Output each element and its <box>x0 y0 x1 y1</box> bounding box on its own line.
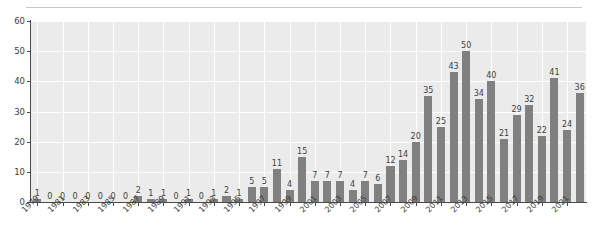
bar-group[interactable]: 36 <box>573 21 586 202</box>
bar-group[interactable]: 0 <box>170 21 183 202</box>
bar-group[interactable]: 7 <box>334 21 347 202</box>
bar-group[interactable]: 0 <box>44 21 57 202</box>
bar-value-label: 40 <box>486 71 496 80</box>
bar-group[interactable]: 0 <box>69 21 82 202</box>
bar-value-label: 1 <box>148 189 153 198</box>
bar-value-label: 15 <box>297 147 307 156</box>
y-tick-mark <box>27 112 31 113</box>
bar[interactable] <box>487 81 495 202</box>
bar-group[interactable]: 7 <box>309 21 322 202</box>
y-tick-label: 20 <box>1 138 25 147</box>
bar-group[interactable]: 20 <box>409 21 422 202</box>
bar-group[interactable]: 4 <box>346 21 359 202</box>
y-tick-mark <box>27 21 31 22</box>
bar[interactable] <box>513 115 521 202</box>
bar-value-label: 36 <box>575 83 585 92</box>
y-tick-mark <box>27 142 31 143</box>
bar-value-label: 21 <box>499 129 509 138</box>
bar-value-label: 24 <box>562 120 572 129</box>
bar-group[interactable]: 22 <box>536 21 549 202</box>
bar[interactable] <box>437 127 445 202</box>
bar[interactable] <box>475 99 483 202</box>
bar-group[interactable]: 0 <box>107 21 120 202</box>
bar-group[interactable]: 1 <box>31 21 44 202</box>
bar[interactable] <box>576 93 584 202</box>
bar[interactable] <box>525 105 533 202</box>
bar-value-label: 0 <box>47 192 52 201</box>
bar-value-label: 0 <box>199 192 204 201</box>
plot-area: 1000000021101012155114157774761214203525… <box>31 21 586 202</box>
bar-group[interactable]: 43 <box>447 21 460 202</box>
bar[interactable] <box>563 130 571 202</box>
y-tick-label: 30 <box>1 108 25 117</box>
bar[interactable] <box>538 136 546 202</box>
bar[interactable] <box>424 96 432 202</box>
bar[interactable] <box>500 139 508 202</box>
bar-value-label: 5 <box>249 177 254 186</box>
bar-value-label: 7 <box>325 171 330 180</box>
bar-group[interactable]: 0 <box>119 21 132 202</box>
bar-group[interactable]: 34 <box>472 21 485 202</box>
bar-value-label: 7 <box>337 171 342 180</box>
bar-value-label: 41 <box>549 68 559 77</box>
bar-value-label: 20 <box>411 132 421 141</box>
bar-group[interactable]: 14 <box>397 21 410 202</box>
bar-value-label: 4 <box>350 180 355 189</box>
bar-group[interactable]: 0 <box>56 21 69 202</box>
bar-group[interactable]: 15 <box>296 21 309 202</box>
bar-group[interactable]: 2 <box>220 21 233 202</box>
bar-value-label: 43 <box>448 62 458 71</box>
bar-group[interactable]: 1 <box>157 21 170 202</box>
bar-group[interactable]: 2 <box>132 21 145 202</box>
bar-group[interactable]: 40 <box>485 21 498 202</box>
y-tick-mark <box>27 51 31 52</box>
bar-group[interactable]: 24 <box>561 21 574 202</box>
bar-value-label: 34 <box>474 89 484 98</box>
bar-group[interactable]: 35 <box>422 21 435 202</box>
top-divider-rule <box>26 7 582 8</box>
bar-group[interactable]: 5 <box>258 21 271 202</box>
bar-value-label: 2 <box>136 186 141 195</box>
bar-group[interactable]: 7 <box>359 21 372 202</box>
bar-group[interactable]: 0 <box>195 21 208 202</box>
bar-group[interactable]: 6 <box>372 21 385 202</box>
bar[interactable] <box>550 78 558 202</box>
bar-group[interactable]: 1 <box>233 21 246 202</box>
bar[interactable] <box>462 51 470 202</box>
y-tick-label: 10 <box>1 168 25 177</box>
y-tick-label: 60 <box>1 17 25 26</box>
bar-group[interactable]: 7 <box>321 21 334 202</box>
bars-layer: 1000000021101012155114157774761214203525… <box>31 21 586 202</box>
bar[interactable] <box>273 169 281 202</box>
bar-value-label: 7 <box>312 171 317 180</box>
bar-value-label: 5 <box>262 177 267 186</box>
bar-value-label: 2 <box>224 186 229 195</box>
y-tick-mark <box>27 81 31 82</box>
bar-value-label: 12 <box>385 156 395 165</box>
bar-group[interactable]: 11 <box>271 21 284 202</box>
bar-group[interactable]: 0 <box>81 21 94 202</box>
bar-group[interactable]: 1 <box>208 21 221 202</box>
bar-group[interactable]: 32 <box>523 21 536 202</box>
bar[interactable] <box>399 160 407 202</box>
bar-group[interactable]: 50 <box>460 21 473 202</box>
bar-value-label: 32 <box>524 95 534 104</box>
bar-value-label: 11 <box>272 159 282 168</box>
bar-value-label: 22 <box>537 126 547 135</box>
bar-group[interactable]: 12 <box>384 21 397 202</box>
bar-group[interactable]: 21 <box>498 21 511 202</box>
y-tick-mark <box>27 172 31 173</box>
bar-group[interactable]: 1 <box>182 21 195 202</box>
bar-group[interactable]: 5 <box>245 21 258 202</box>
bar[interactable] <box>450 72 458 202</box>
bar-group[interactable]: 1 <box>145 21 158 202</box>
bar-group[interactable]: 0 <box>94 21 107 202</box>
bar-group[interactable]: 4 <box>283 21 296 202</box>
bar-value-label: 25 <box>436 117 446 126</box>
bar-group[interactable]: 41 <box>548 21 561 202</box>
bar-value-label: 29 <box>512 105 522 114</box>
bar-group[interactable]: 25 <box>435 21 448 202</box>
bar[interactable] <box>298 157 306 202</box>
bar-value-label: 0 <box>73 192 78 201</box>
bar-group[interactable]: 29 <box>510 21 523 202</box>
